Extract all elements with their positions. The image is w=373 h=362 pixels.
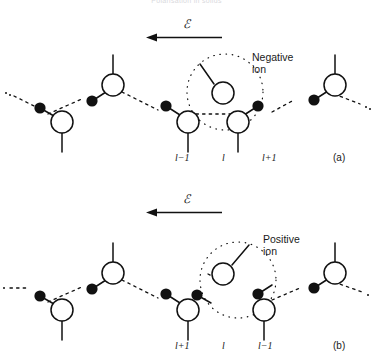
callout-positive-ion-line1: Positive bbox=[263, 234, 300, 246]
site-label-b-1: l bbox=[222, 340, 225, 351]
site-label-b-0: l+1 bbox=[175, 340, 190, 351]
site-label-b-2: l−1 bbox=[258, 340, 273, 351]
callout-positive-ion: Positive ion bbox=[263, 234, 300, 257]
panel-label-b: (b) bbox=[333, 340, 345, 351]
chain-panel-b bbox=[0, 0, 373, 362]
callout-positive-ion-line2: ion bbox=[263, 246, 300, 258]
figure-ionic-chain: Polarisation in solids ℰ bbox=[0, 0, 373, 362]
